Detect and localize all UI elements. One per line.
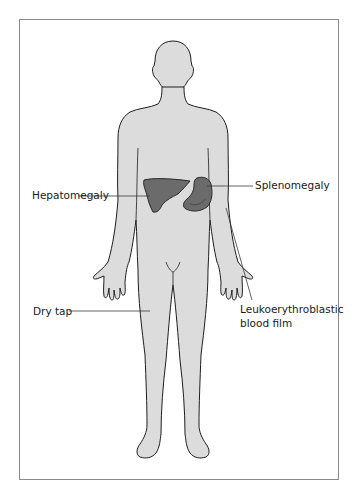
body-silhouette [93,41,252,458]
label-hepatomegaly: Hepatomegaly [32,188,109,202]
label-dry-tap: Dry tap [33,304,72,318]
label-leukoerythroblastic-blood-film: Leukoerythroblastic blood film [240,302,335,330]
label-splenomegaly: Splenomegaly [255,178,330,192]
body-diagram [0,0,353,491]
head [153,41,194,91]
